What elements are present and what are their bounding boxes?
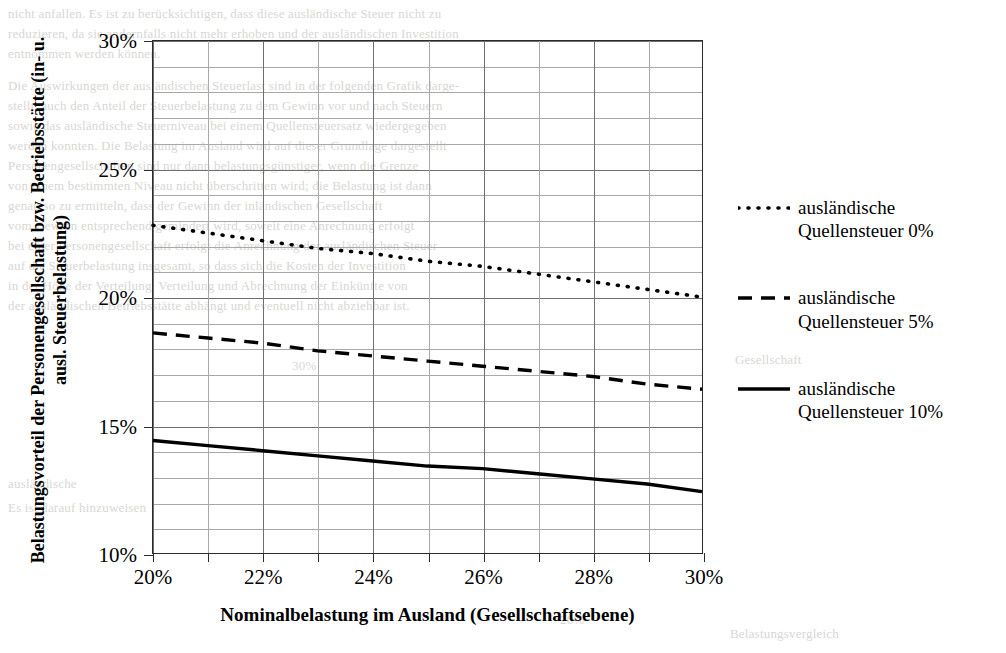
series-line-dashed [153, 333, 702, 389]
x-axis-tick [484, 553, 485, 562]
y-tick-label: 30% [99, 31, 138, 52]
plot-area: 10%15%20%25%30% 20%22%24%26%28%30% [152, 40, 703, 554]
legend-item[interactable]: ausländische Quellensteuer 0% [738, 196, 988, 242]
x-axis-tick [594, 553, 595, 562]
legend-label: ausländische Quellensteuer 5% [798, 286, 934, 332]
y-axis-tick [144, 170, 153, 171]
legend-item[interactable]: ausländische Quellensteuer 5% [738, 286, 988, 332]
legend-label: ausländische Quellensteuer 0% [798, 196, 934, 242]
x-axis-tick [153, 553, 154, 562]
legend-item[interactable]: ausländische Quellensteuer 10% [738, 377, 988, 423]
y-axis-tick [144, 555, 153, 556]
series-layer [153, 41, 702, 553]
x-tick-label: 20% [134, 567, 173, 588]
series-line-solid [153, 440, 702, 491]
y-tick-label: 25% [99, 159, 138, 180]
x-axis-tick [704, 553, 705, 562]
x-axis-tick [373, 553, 374, 562]
chart-figure: Belastungsvorteil der Personengesellscha… [0, 0, 1006, 653]
legend-label: ausländische Quellensteuer 10% [798, 377, 943, 423]
x-tick-label: 30% [685, 567, 724, 588]
x-axis-tick [263, 553, 264, 562]
x-axis-title: Nominalbelastung im Ausland (Gesellschaf… [152, 604, 703, 626]
y-tick-label: 10% [99, 545, 138, 566]
x-axis-tick [649, 553, 650, 562]
x-axis-tick [318, 553, 319, 562]
x-axis-tick [208, 553, 209, 562]
series-line-dotted [153, 225, 702, 297]
y-axis-title-text: Belastungsvorteil der Personengesellscha… [28, 20, 72, 580]
y-axis-tick [144, 298, 153, 299]
x-axis-tick [429, 553, 430, 562]
y-axis-tick [144, 427, 153, 428]
x-tick-label: 24% [354, 567, 393, 588]
legend-swatch-solid-icon [738, 381, 790, 401]
y-tick-label: 15% [99, 416, 138, 437]
chart-legend: ausländische Quellensteuer 0%ausländisch… [738, 196, 988, 467]
x-axis-tick [539, 553, 540, 562]
y-tick-label: 20% [99, 288, 138, 309]
y-axis-title: Belastungsvorteil der Personengesellscha… [0, 0, 100, 600]
legend-swatch-dashed-icon [738, 290, 790, 310]
x-tick-label: 28% [575, 567, 614, 588]
y-axis-tick [144, 41, 153, 42]
x-tick-label: 22% [244, 567, 283, 588]
x-tick-label: 26% [464, 567, 503, 588]
legend-swatch-dotted-icon [738, 200, 790, 220]
